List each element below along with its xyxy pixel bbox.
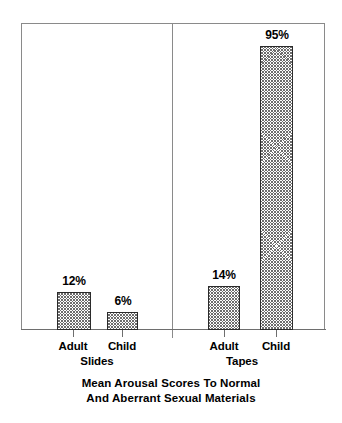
tick-adult-tapes	[224, 330, 225, 337]
bar-child-tapes	[260, 46, 293, 330]
category-label-adult-tapes: Adult	[194, 341, 254, 353]
value-label-child-slides: 6%	[93, 295, 153, 307]
group-divider-line	[172, 23, 173, 338]
tick-adult-slides	[73, 330, 74, 337]
value-label-adult-tapes: 14%	[194, 269, 254, 281]
category-label-child-tapes: Child	[246, 341, 306, 353]
group-label-slides: Slides	[67, 356, 127, 368]
bar-adult-tapes	[208, 286, 240, 330]
group-label-tapes: Tapes	[212, 356, 272, 368]
chart-caption: Mean Arousal Scores To Normal And Aberra…	[0, 376, 342, 406]
caption-line-1: Mean Arousal Scores To Normal	[0, 376, 342, 391]
tick-child-slides	[122, 330, 123, 337]
caption-line-2: And Aberrant Sexual Materials	[0, 391, 342, 406]
bar-child-slides	[107, 312, 138, 330]
bar-chart-figure: 12% 6% 14% 95% Adult Child Adult Child S…	[0, 0, 342, 423]
value-label-child-tapes: 95%	[247, 29, 307, 41]
tick-child-tapes	[276, 330, 277, 337]
bar-adult-slides	[57, 292, 91, 330]
category-label-child-slides: Child	[92, 341, 152, 353]
value-label-adult-slides: 12%	[44, 275, 104, 287]
